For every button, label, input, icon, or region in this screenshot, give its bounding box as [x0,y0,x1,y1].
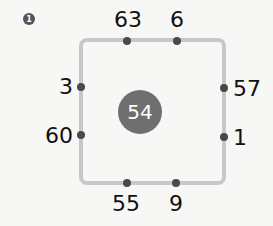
problem-number-badge: 1 [23,13,35,25]
dot-bottom-right [172,179,180,187]
center-value-circle: 54 [118,90,162,134]
dot-top-left [123,37,131,45]
number-left-lower: 60 [45,125,73,147]
number-right-upper: 57 [233,78,261,100]
dot-top-right [173,37,181,45]
number-bottom-left: 55 [112,193,140,215]
dot-left-lower [77,131,85,139]
dot-right-lower [220,133,228,141]
dot-left-upper [77,83,85,91]
dot-bottom-left [123,179,131,187]
number-right-lower: 1 [233,127,247,149]
dot-right-upper [220,84,228,92]
number-top-left: 63 [114,9,142,31]
number-bottom-right: 9 [169,193,183,215]
number-left-upper: 3 [59,76,73,98]
number-top-right: 6 [170,9,184,31]
